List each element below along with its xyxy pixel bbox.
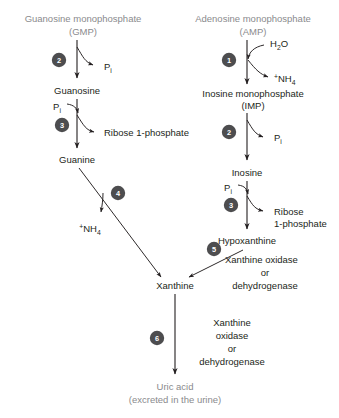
label-pi-input-step3-left: Pi xyxy=(53,101,61,114)
step-number-2-right: 2 xyxy=(227,128,231,137)
step-circle-5-right: 5 xyxy=(207,242,221,256)
arrow-water-into-step1 xyxy=(248,45,264,59)
label-ammonium-step4: +NH4 xyxy=(79,223,101,236)
label-pi-input-step3-right: Pi xyxy=(224,182,232,195)
node-inosine: Inosine xyxy=(232,167,263,178)
label-ribose-1-phosphate-left: Ribose 1-phosphate xyxy=(104,127,189,138)
node-hypoxanthine: Hypoxanthine xyxy=(218,235,276,246)
node-xanthine: Xanthine xyxy=(156,280,194,291)
node-imp-line1: Inosine monophosphate xyxy=(202,88,303,99)
label-enzyme-step6-line4: dehydrogenase xyxy=(199,356,265,367)
arrow-step1-to-ammonium xyxy=(248,60,268,77)
label-water-step1: H2O xyxy=(270,38,288,51)
step-number-5-right: 5 xyxy=(212,245,216,254)
step-number-1-right: 1 xyxy=(227,56,231,65)
arrow-step2-right-to-pi xyxy=(247,120,263,137)
step-circle-3-left: 3 xyxy=(55,118,69,132)
arrow-step3-left-to-ribose xyxy=(77,115,94,132)
arrow-step3-right-to-ribose xyxy=(247,196,263,211)
label-pi-step2-left: Pi xyxy=(104,61,112,74)
step-number-3-left: 3 xyxy=(60,121,64,130)
label-enzyme-step6-line2: oxidase xyxy=(216,330,249,341)
label-enzyme-step5-line1: Xanthine oxidase xyxy=(225,254,298,265)
node-gmp-line2: (GMP) xyxy=(69,26,97,37)
node-imp-line2: (IMP) xyxy=(241,100,264,111)
node-amp-line1: Adenosine monophosphate xyxy=(195,13,311,24)
node-guanosine: Guanosine xyxy=(54,85,100,96)
label-enzyme-step5-line3: dehydrogenase xyxy=(232,280,298,291)
arrow-pi-into-step3-left xyxy=(67,104,78,113)
label-enzyme-step5-line2: or xyxy=(261,267,269,278)
node-guanine: Guanine xyxy=(59,154,95,165)
step-circle-2-right: 2 xyxy=(222,125,236,139)
arrow-step2-left-to-pi xyxy=(77,47,93,65)
label-enzyme-step6-line1: Xanthine xyxy=(213,317,251,328)
arrow-step4-to-ammonium xyxy=(101,193,103,212)
node-gmp-line1: Guanosine monophosphate xyxy=(25,13,142,24)
label-enzyme-step6-line3: or xyxy=(228,343,236,354)
label-ammonium-step1: +NH4 xyxy=(274,73,296,86)
step-circle-1-right: 1 xyxy=(222,53,236,67)
pathway-canvas: Guanosine monophosphate (GMP) 2 Pi Guano… xyxy=(0,0,339,418)
step-circle-2-left: 2 xyxy=(52,53,66,67)
step-number-2-left: 2 xyxy=(57,56,61,65)
step-circle-4-left: 4 xyxy=(111,186,125,200)
label-pi-step2-right: Pi xyxy=(274,132,282,145)
node-uric-acid-line2: (excreted in the urine) xyxy=(129,394,221,405)
step-number-6-final: 6 xyxy=(155,334,159,343)
node-amp-line2: (AMP) xyxy=(240,26,267,37)
node-uric-acid-line1: Uric acid xyxy=(157,381,194,392)
label-ribose-right-line2: 1-phosphate xyxy=(274,218,327,229)
pathway-diagram: Guanosine monophosphate (GMP) 2 Pi Guano… xyxy=(0,0,339,418)
step-number-3-right: 3 xyxy=(229,201,233,210)
step-circle-6-final: 6 xyxy=(150,331,164,345)
step-circle-3-right: 3 xyxy=(224,198,238,212)
label-ribose-right-line1: Ribose xyxy=(274,206,304,217)
